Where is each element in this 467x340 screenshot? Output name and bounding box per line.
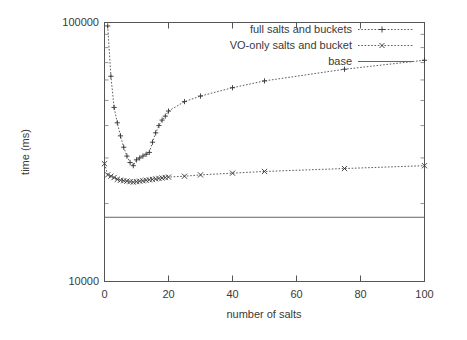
line-chart: 100000 10000 020406080100 number of salt… xyxy=(0,0,467,340)
x-tick-label-0: 0 xyxy=(101,288,107,300)
x-tick-label-40: 40 xyxy=(226,288,238,300)
legend-label-vo-only: VO-only salts and bucket xyxy=(230,39,352,51)
x-axis-title: number of salts xyxy=(226,308,302,320)
x-tick-label-100: 100 xyxy=(415,288,433,300)
y-tick-label-top: 100000 xyxy=(62,16,99,28)
chart-container: 100000 10000 020406080100 number of salt… xyxy=(0,0,467,340)
legend-label-base: base xyxy=(328,55,352,67)
y-axis-title: time (ms) xyxy=(19,129,31,175)
x-tick-label-60: 60 xyxy=(290,288,302,300)
y-tick-label-bottom: 10000 xyxy=(68,275,99,287)
x-tick-label-20: 20 xyxy=(162,288,174,300)
x-tick-label-80: 80 xyxy=(354,288,366,300)
legend-label-full-salts: full salts and buckets xyxy=(250,23,353,35)
